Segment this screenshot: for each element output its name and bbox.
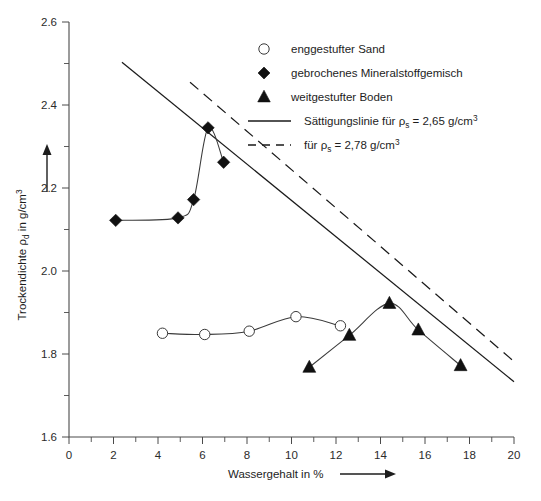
marker-open-circle bbox=[291, 311, 301, 321]
series-line-2 bbox=[309, 303, 460, 367]
legend-entry-0[interactable]: enggestufter Sand bbox=[259, 43, 385, 55]
legend-icon-filled-triangle bbox=[258, 90, 271, 102]
series-line-1 bbox=[116, 127, 224, 220]
marker-open-circle bbox=[157, 328, 167, 338]
series-1 bbox=[110, 122, 230, 227]
legend-label-0: enggestufter Sand bbox=[291, 43, 385, 55]
x-axis-title: Wassergehalt in % bbox=[228, 468, 323, 480]
x-tick-label: 2 bbox=[110, 449, 116, 461]
x-tick-label: 6 bbox=[199, 449, 205, 461]
marker-filled-diamond bbox=[172, 212, 184, 224]
marker-open-circle bbox=[200, 329, 210, 339]
legend-icon-open-circle bbox=[259, 44, 269, 54]
legend: enggestufter Sandgebrochenes Mineralstof… bbox=[248, 43, 478, 154]
marker-filled-diamond bbox=[110, 214, 122, 226]
legend-icon-filled-diamond bbox=[258, 67, 270, 79]
legend-label-2: weitgestufter Boden bbox=[290, 91, 393, 103]
x-axis-arrow-head bbox=[385, 470, 396, 479]
marker-filled-triangle bbox=[383, 296, 396, 308]
x-tick-label: 8 bbox=[244, 449, 250, 461]
x-tick-label: 4 bbox=[155, 449, 162, 461]
y-tick-label: 2.2 bbox=[41, 182, 57, 194]
marker-filled-diamond bbox=[202, 122, 214, 134]
legend-entry-2[interactable]: weitgestufter Boden bbox=[258, 90, 393, 103]
marker-filled-triangle bbox=[303, 360, 316, 372]
marker-filled-diamond bbox=[187, 193, 199, 205]
y-axis-title: Trockendichte ρd in g/cm3 bbox=[14, 189, 31, 320]
legend-line-label-1: für ρs = 2,78 g/cm3 bbox=[304, 137, 400, 154]
marker-filled-triangle bbox=[343, 328, 356, 340]
y-axis-title-group: Trockendichte ρd in g/cm3 bbox=[14, 189, 31, 320]
legend-label-1: gebrochenes Mineralstoffgemisch bbox=[291, 67, 463, 79]
y-tick-label: 2.4 bbox=[41, 99, 58, 111]
x-tick-label: 10 bbox=[285, 449, 298, 461]
legend-line-label-0: Sättigungslinie für ρs = 2,65 g/cm3 bbox=[304, 113, 478, 130]
chart-container: 1.61.82.02.22.42.602468101214161820Wasse… bbox=[0, 0, 541, 501]
x-tick-label: 14 bbox=[374, 449, 387, 461]
x-tick-label: 16 bbox=[419, 449, 432, 461]
marker-open-circle bbox=[244, 326, 254, 336]
x-axis-title-group: Wassergehalt in % bbox=[228, 468, 396, 480]
marker-filled-triangle bbox=[454, 359, 467, 371]
legend-line-entry-1[interactable]: für ρs = 2,78 g/cm3 bbox=[248, 137, 400, 154]
chart-svg: 1.61.82.02.22.42.602468101214161820Wasse… bbox=[0, 0, 541, 501]
y-axis-arrow-head bbox=[43, 144, 52, 155]
series-2 bbox=[303, 296, 467, 372]
y-tick-label: 2.6 bbox=[41, 16, 57, 28]
marker-open-circle bbox=[335, 321, 345, 331]
y-tick-label: 1.6 bbox=[41, 431, 57, 443]
legend-entry-1[interactable]: gebrochenes Mineralstoffgemisch bbox=[258, 67, 463, 79]
y-tick-label: 1.8 bbox=[41, 348, 57, 360]
x-tick-label: 0 bbox=[66, 449, 72, 461]
y-tick-label: 2.0 bbox=[41, 265, 57, 277]
marker-filled-diamond bbox=[217, 156, 229, 168]
x-tick-label: 12 bbox=[330, 449, 343, 461]
axis-lines bbox=[69, 22, 514, 437]
series-0 bbox=[157, 311, 345, 339]
legend-line-entry-0[interactable]: Sättigungslinie für ρs = 2,65 g/cm3 bbox=[248, 113, 478, 130]
x-tick-label: 20 bbox=[508, 449, 521, 461]
x-tick-label: 18 bbox=[463, 449, 476, 461]
